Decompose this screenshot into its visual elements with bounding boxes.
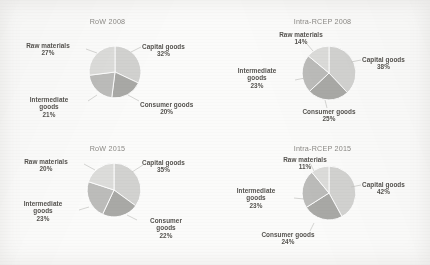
label-pct: 23% [219, 202, 293, 209]
label-capital-goods-intra-rcep-2015: Capital goods 42% [362, 181, 405, 196]
label-pct: 22% [136, 232, 196, 239]
label-pct: 27% [12, 49, 84, 56]
pie-intra-rcep-2015 [301, 165, 357, 221]
pie-svg-intra-rcep-2008 [301, 45, 357, 101]
label-text: Raw materials [26, 42, 70, 49]
pie-slices-intra-rcep-2008 [302, 46, 356, 100]
label-text: Capital goods [362, 56, 405, 63]
label-consumer-goods-row-2008: Consumer goods 20% [140, 101, 193, 116]
label-intermediate-goods-intra-rcep-2008: Intermediate goods 23% [221, 67, 293, 89]
label-text: Raw materials [283, 156, 327, 163]
label-pct: 11% [269, 163, 341, 170]
chart-title-row-2015: RoW 2015 [0, 144, 215, 153]
label-capital-goods-row-2015: Capital goods 35% [142, 159, 185, 174]
label-pct: 23% [8, 215, 78, 222]
label-pct: 23% [221, 82, 293, 89]
label-text: Consumer goods [302, 108, 355, 115]
pie-svg-row-2008 [88, 45, 142, 99]
label-consumer-goods-row-2015: Consumer goods 22% [136, 217, 196, 239]
pie-svg-row-2015 [86, 162, 142, 218]
label-text-2: goods [14, 103, 84, 110]
panel-intra-rcep-2015: Intra-RCEP 2015 Capital goods 42% Raw ma [215, 132, 430, 265]
label-pct: 20% [140, 108, 193, 115]
chart-title-row-2008: RoW 2008 [0, 17, 215, 26]
label-intermediate-goods-intra-rcep-2015: Intermediate goods 23% [219, 187, 293, 209]
pie-row-2008 [88, 45, 142, 99]
label-consumer-goods-intra-rcep-2008: Consumer goods 25% [291, 108, 367, 123]
pie-svg-intra-rcep-2015 [301, 165, 357, 221]
label-pct: 38% [362, 63, 405, 70]
label-consumer-goods-intra-rcep-2015: Consumer goods 24% [243, 231, 333, 246]
label-raw-materials-intra-rcep-2015: Raw materials 11% [269, 156, 341, 171]
label-intermediate-goods-row-2015: Intermediate goods 23% [8, 200, 78, 222]
label-capital-goods-row-2008: Capital goods 32% [142, 43, 185, 58]
label-text: Intermediate [24, 200, 63, 207]
pie-row-2015 [86, 162, 142, 218]
panel-intra-rcep-2008: Intra-RCEP 2008 Capital goods 38% Raw ma [215, 0, 430, 133]
pie-chart-grid: RoW 2008 Capital goods 32% Raw materials [0, 0, 430, 265]
label-intermediate-goods-row-2008: Intermediate goods 21% [14, 96, 84, 118]
pie-slices-row-2015 [87, 163, 141, 217]
slice-intermediate-goods [89, 72, 115, 98]
label-pct: 24% [243, 238, 333, 245]
label-text: Capital goods [142, 159, 185, 166]
pie-slices-row-2008 [89, 46, 141, 98]
label-text: Capital goods [362, 181, 405, 188]
label-text-2: goods [136, 224, 196, 231]
label-text: Intermediate [238, 67, 277, 74]
label-pct: 20% [10, 165, 82, 172]
label-pct: 21% [14, 111, 84, 118]
label-pct: 25% [291, 115, 367, 122]
label-pct: 32% [142, 50, 185, 57]
label-text-2: goods [8, 207, 78, 214]
label-raw-materials-row-2015: Raw materials 20% [10, 158, 82, 173]
label-pct: 42% [362, 188, 405, 195]
label-text: Consumer [150, 217, 182, 224]
panel-row-2008: RoW 2008 Capital goods 32% Raw materials [0, 0, 215, 133]
slice-raw-materials [89, 46, 115, 75]
label-text-2: goods [219, 194, 293, 201]
label-raw-materials-intra-rcep-2008: Raw materials 14% [265, 31, 337, 46]
chart-title-intra-rcep-2008: Intra-RCEP 2008 [215, 17, 430, 26]
chart-title-intra-rcep-2015: Intra-RCEP 2015 [215, 144, 430, 153]
label-text: Raw materials [279, 31, 323, 38]
panel-row-2015: RoW 2015 Capital goods 35% Raw materials [0, 132, 215, 265]
label-text: Intermediate [237, 187, 276, 194]
label-text: Capital goods [142, 43, 185, 50]
label-text: Intermediate [30, 96, 69, 103]
label-pct: 35% [142, 166, 185, 173]
label-raw-materials-row-2008: Raw materials 27% [12, 42, 84, 57]
label-pct: 14% [265, 38, 337, 45]
label-capital-goods-intra-rcep-2008: Capital goods 38% [362, 56, 405, 71]
label-text: Consumer goods [261, 231, 314, 238]
pie-intra-rcep-2008 [301, 45, 357, 101]
pie-slices-intra-rcep-2015 [302, 166, 356, 220]
label-text-2: goods [221, 74, 293, 81]
label-text: Raw materials [24, 158, 68, 165]
label-text: Consumer goods [140, 101, 193, 108]
